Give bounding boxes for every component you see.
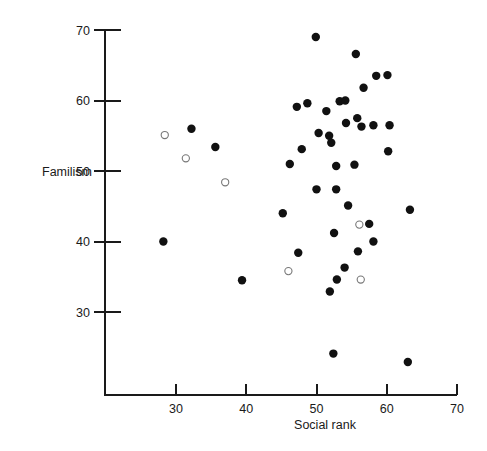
data-point-filled (350, 160, 358, 168)
data-point-filled (238, 276, 246, 284)
data-point-filled (333, 275, 341, 283)
data-point-filled (279, 209, 287, 217)
data-point-filled (298, 145, 306, 153)
y-tick-label: 40 (76, 235, 90, 249)
data-point-filled (384, 147, 392, 155)
data-point-filled (293, 103, 301, 111)
data-point-filled (344, 201, 352, 209)
x-tick-label: 40 (239, 402, 253, 416)
axes-group: 3040506070 3040506070 (76, 24, 464, 417)
data-point-filled (286, 160, 294, 168)
data-point-filled (385, 121, 393, 129)
x-tick-label: 30 (169, 402, 183, 416)
data-point-filled (327, 139, 335, 147)
data-point-filled (314, 129, 322, 137)
data-point-filled (340, 263, 348, 271)
data-point-filled (354, 247, 362, 255)
data-point-filled (332, 162, 340, 170)
y-tick-label: 70 (76, 24, 90, 38)
x-tick-label: 50 (310, 402, 324, 416)
data-point-filled (326, 287, 334, 295)
data-point-open (356, 221, 363, 228)
data-point-filled (329, 349, 337, 357)
data-point-filled (359, 84, 367, 92)
data-point-filled (369, 237, 377, 245)
data-point-filled (294, 249, 302, 257)
data-point-open (182, 155, 189, 162)
data-point-filled (322, 107, 330, 115)
data-point-open (285, 268, 292, 275)
chart-canvas: 3040506070 3040506070 Familism Social ra… (0, 0, 487, 451)
data-point-filled (383, 71, 391, 79)
data-point-filled (342, 119, 350, 127)
data-points-group (159, 33, 414, 366)
y-tick-label: 60 (76, 94, 90, 108)
data-point-filled (332, 185, 340, 193)
data-point-open (357, 276, 364, 283)
x-axis-ticks: 3040506070 (169, 384, 464, 416)
x-axis-title: Social rank (294, 418, 357, 432)
data-point-filled (187, 125, 195, 133)
data-point-filled (330, 229, 338, 237)
x-tick-label: 70 (450, 402, 464, 416)
x-tick-label: 60 (380, 402, 394, 416)
data-point-filled (211, 143, 219, 151)
data-point-filled (404, 358, 412, 366)
y-tick-label: 30 (76, 306, 90, 320)
data-point-filled (406, 206, 414, 214)
data-point-filled (303, 99, 311, 107)
data-point-filled (372, 72, 380, 80)
data-point-filled (312, 33, 320, 41)
data-point-filled (159, 237, 167, 245)
data-point-filled (365, 220, 373, 228)
data-point-open (222, 179, 229, 186)
y-axis-title: Familism (42, 165, 92, 179)
data-point-filled (353, 114, 361, 122)
data-point-filled (369, 121, 377, 129)
data-point-filled (357, 122, 365, 130)
scatter-plot-figure: 3040506070 3040506070 Familism Social ra… (0, 0, 487, 451)
data-point-open (161, 131, 168, 138)
data-point-filled (352, 50, 360, 58)
data-point-filled (312, 185, 320, 193)
data-point-filled (341, 96, 349, 104)
